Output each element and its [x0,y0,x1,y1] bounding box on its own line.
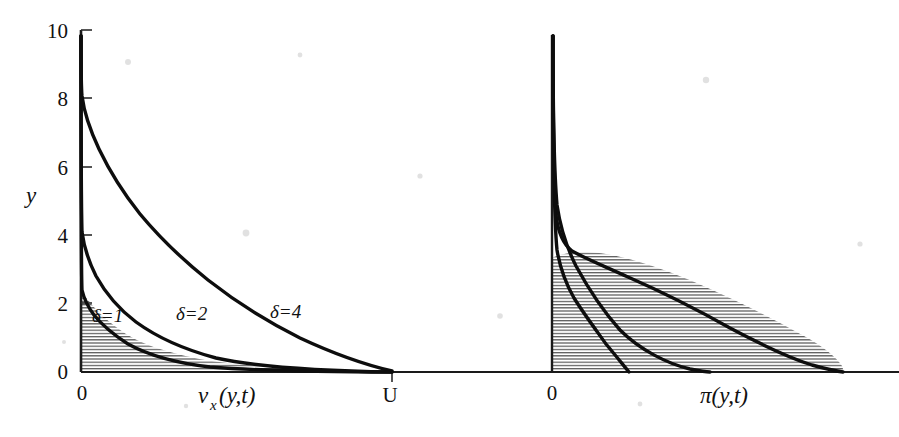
left-x-max-label: U [382,383,397,407]
right-x-axis-label: π(y,t) [700,383,748,408]
y-tick-label-0: 0 [58,360,69,384]
y-tick-label-4: 4 [58,224,69,248]
annotation-delta-1: δ=1 [92,305,123,326]
boundary-layer-figure: 10 8 6 4 2 0 y 0 U v x (y,t) [0,0,899,437]
right-x-origin-label: 0 [547,381,558,405]
left-y-axis-label: y [24,183,37,208]
annotation-delta-2: δ=2 [176,303,208,324]
left-x-origin-label: 0 [77,381,88,405]
annotation-delta-4: δ=4 [270,301,302,322]
y-tick-label-8: 8 [58,87,69,111]
left-x-axis-label-main: v [198,383,209,408]
left-x-axis-label-sub: x [209,397,217,413]
y-tick-label-10: 10 [47,19,68,43]
figure-container: 10 8 6 4 2 0 y 0 U v x (y,t) [0,0,899,437]
y-tick-label-2: 2 [58,292,69,316]
left-x-axis-label-tail: (y,t) [219,383,255,408]
y-tick-label-6: 6 [58,156,69,180]
